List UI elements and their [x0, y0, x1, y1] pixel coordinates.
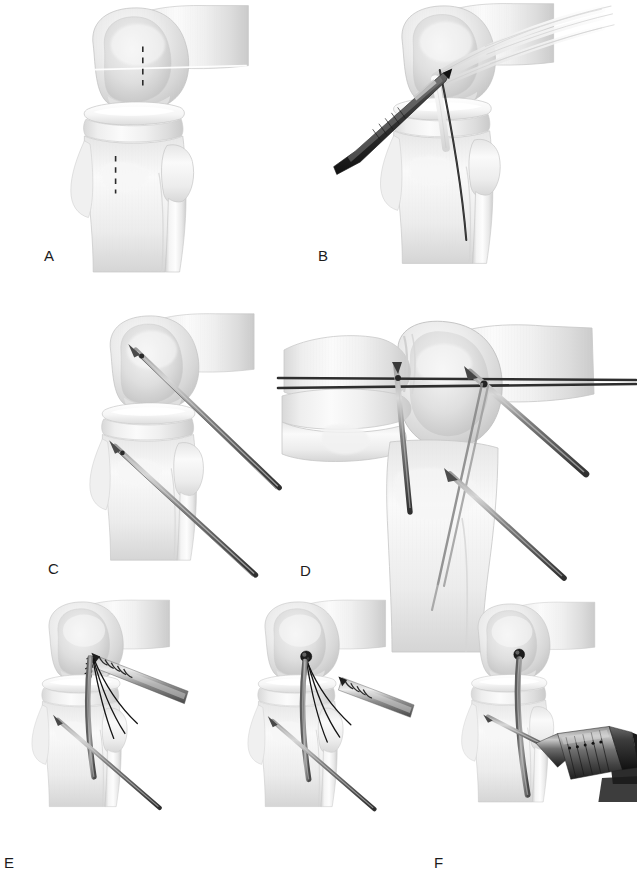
knee-anatomy-e2	[248, 600, 386, 807]
panel-label-b: B	[318, 248, 329, 263]
panel-a-artwork	[71, 6, 249, 272]
panel-label-d: D	[300, 563, 311, 578]
surgical-illustration-canvas	[0, 0, 637, 880]
panel-f-artwork	[462, 602, 637, 802]
panel-e1-artwork	[32, 600, 188, 808]
pin-entry-point-femur-c	[139, 353, 144, 358]
knee-anatomy-e1	[32, 600, 170, 807]
panel-c-artwork	[90, 314, 279, 577]
drill-shadow-lower-f	[598, 776, 637, 802]
panel-e2-artwork	[248, 600, 414, 809]
panel-label-e: E	[4, 855, 15, 870]
knee-anatomy-b	[380, 4, 553, 264]
wire-crossing-point-medial-d	[395, 375, 401, 381]
panel-b-artwork	[334, 4, 615, 264]
panel-label-c: C	[48, 561, 59, 576]
pin-entry-point-tibia-c	[120, 451, 125, 456]
figure-sheet: A B C D E F	[0, 0, 637, 880]
anchor-driver-e2	[338, 676, 414, 717]
panel-label-f: F	[434, 855, 444, 870]
panel-label-a: A	[44, 248, 55, 263]
knee-anatomy-a	[71, 6, 249, 272]
